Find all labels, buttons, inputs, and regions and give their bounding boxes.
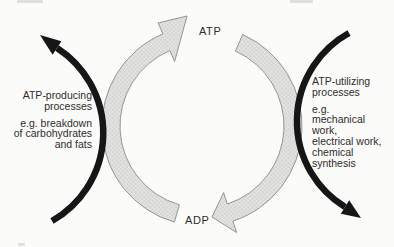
cycle-arrow-adp-to-atp-icon xyxy=(102,16,187,222)
scan-artifact xyxy=(17,0,43,3)
label-line: chemical xyxy=(312,147,381,158)
atp-producing-name: ATP-producing processes xyxy=(0,90,92,112)
adp-node-label: ADP xyxy=(185,215,209,226)
atp-producing-label: ATP-producing processes e.g. breakdown o… xyxy=(0,90,92,150)
atp-adp-cycle-diagram: ATP ADP ATP-producing processes e.g. bre… xyxy=(0,0,394,247)
label-line: processes xyxy=(312,87,381,98)
label-line: processes xyxy=(0,101,92,112)
atp-utilizing-name: ATP-utilizing processes xyxy=(312,76,381,98)
scan-artifact xyxy=(290,0,313,3)
atp-utilizing-label: ATP-utilizing processes e.g. mechanical … xyxy=(312,76,381,168)
atp-producing-examples: e.g. breakdown of carbohydrates and fats xyxy=(0,118,92,150)
cycle-arrow-atp-to-adp-icon xyxy=(212,35,302,233)
atp-utilizing-examples: e.g. mechanical work, electrical work, c… xyxy=(312,104,381,169)
label-line: synthesis xyxy=(312,158,381,169)
scan-artifact xyxy=(18,243,25,246)
label-line: and fats xyxy=(0,139,92,150)
atp-node-label: ATP xyxy=(199,26,221,37)
